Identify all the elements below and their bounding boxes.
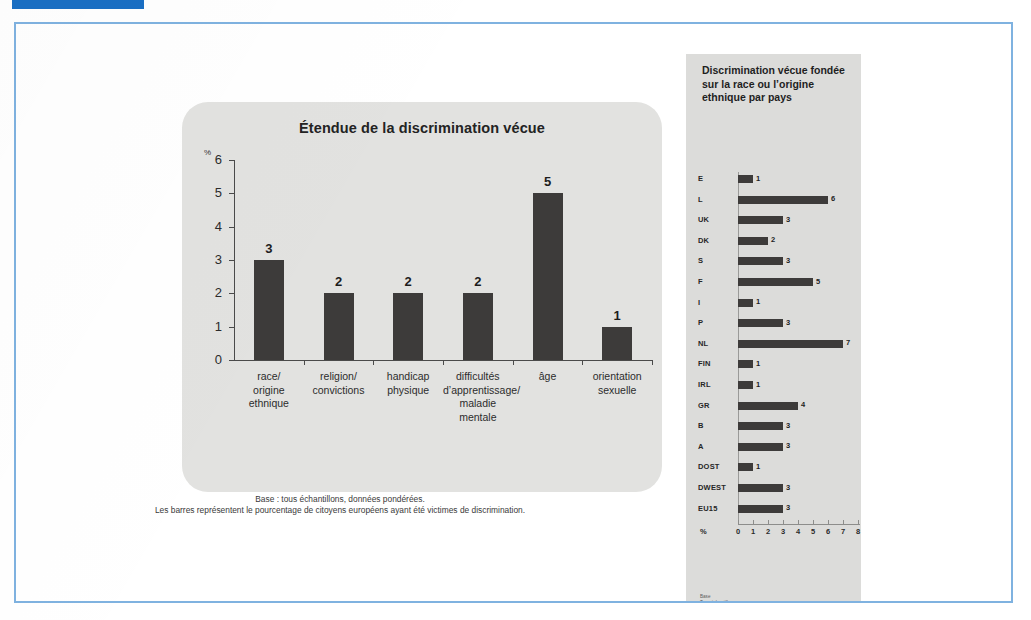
country-axis-tick-label: 2 [763,527,773,536]
country-x-axis-line [738,524,860,525]
country-bar-value: 5 [816,277,820,286]
y-tick-label: 4 [196,219,222,234]
x-category-label: handicapphysique [373,370,443,397]
country-bar-value: 1 [756,174,760,183]
country-bar [738,402,798,410]
country-axis-tick-label: 8 [853,527,863,536]
country-bar [738,299,753,307]
bar-value-label: 5 [528,174,568,189]
country-label: F [698,277,734,286]
country-label: EU15 [698,504,734,513]
country-bar-value: 2 [771,235,775,244]
bar [533,193,563,360]
country-label: I [698,298,734,307]
bar-value-label: 2 [319,274,359,289]
country-bar [738,237,768,245]
x-category-line: âge [513,370,583,384]
country-row: DK2 [686,234,861,250]
country-bar [738,196,828,204]
bar-value-label: 1 [597,308,637,323]
country-label: P [698,318,734,327]
left-chart-panel: Étendue de la discrimination vécue % 012… [182,102,662,492]
country-row: EU153 [686,502,861,518]
country-bar-value: 3 [786,318,790,327]
x-category-label: religion/convictions [304,370,374,397]
y-tick-label: 2 [196,285,222,300]
y-tick-label: 0 [196,352,222,367]
country-bar [738,216,783,224]
country-bar-value: 3 [786,441,790,450]
y-tick-mark [229,227,234,228]
y-tick-mark [229,360,234,361]
country-axis-tick-label: 1 [748,527,758,536]
country-label: E [698,174,734,183]
x-tick-mark [513,360,514,365]
y-tick-mark [229,193,234,194]
country-axis-tick [768,520,769,524]
bar [602,327,632,360]
right-chart-plot: % E1L6UK3DK2S3F5I1P3NL7FIN1IRL1GR4B3A3DO… [686,54,861,601]
x-tick-mark [373,360,374,365]
x-category-line: religion/ [304,370,374,384]
x-category-label: âge [513,370,583,384]
bar-value-label: 2 [458,274,498,289]
country-bar [738,340,843,348]
country-axis-tick [858,520,859,524]
x-category-line: convictions [304,384,374,398]
country-label: L [698,195,734,204]
country-label: DK [698,236,734,245]
country-bar-value: 4 [801,400,805,409]
country-axis-tick [798,520,799,524]
bar [463,293,493,360]
page-frame: Étendue de la discrimination vécue % 012… [14,22,1013,603]
country-bar-value: 7 [846,338,850,347]
country-row: P3 [686,316,861,332]
country-row: E1 [686,172,861,188]
bar [254,260,284,360]
right-caption-line-2: Tous échantillons. [700,600,852,601]
country-axis-tick-label: 5 [808,527,818,536]
country-row: S3 [686,254,861,270]
country-row: A3 [686,440,861,456]
country-label: DOST [698,462,734,471]
country-bar [738,463,753,471]
x-category-label: orientationsexuelle [582,370,652,397]
country-bar-value: 3 [786,503,790,512]
right-chart-panel: Discrimination vécue fondée sur la race … [686,54,861,601]
y-tick-mark [229,327,234,328]
country-axis-tick-label: 6 [823,527,833,536]
y-tick-mark [229,260,234,261]
country-axis-tick-label: 0 [733,527,743,536]
country-label: S [698,256,734,265]
x-category-label: difficultésd’apprentissage/maladie menta… [443,370,513,424]
country-label: NL [698,339,734,348]
y-tick-label: 5 [196,185,222,200]
country-bar-value: 1 [756,462,760,471]
country-axis-tick-label: 3 [778,527,788,536]
x-category-line: physique [373,384,443,398]
country-axis-tick-label: 7 [838,527,848,536]
y-tick-label: 3 [196,252,222,267]
x-category-line: difficultés [443,370,513,384]
country-row: NL7 [686,337,861,353]
right-chart-x-unit: % [700,527,707,536]
country-bar-value: 1 [756,297,760,306]
country-label: IRL [698,380,734,389]
country-label: DWEST [698,483,734,492]
country-bar-value: 3 [786,421,790,430]
y-tick-label: 6 [196,152,222,167]
country-axis-tick [738,520,739,524]
country-row: FIN1 [686,357,861,373]
country-bar [738,319,783,327]
x-category-line: handicap [373,370,443,384]
country-row: B3 [686,419,861,435]
page-content: Étendue de la discrimination vécue % 012… [16,24,1011,601]
country-axis-tick [813,520,814,524]
bar-value-label: 2 [388,274,428,289]
country-bar [738,278,813,286]
top-blue-tab [12,0,144,9]
country-row: I1 [686,296,861,312]
x-category-line: race/ [234,370,304,384]
x-category-label: race/origineethnique [234,370,304,411]
bar [393,293,423,360]
